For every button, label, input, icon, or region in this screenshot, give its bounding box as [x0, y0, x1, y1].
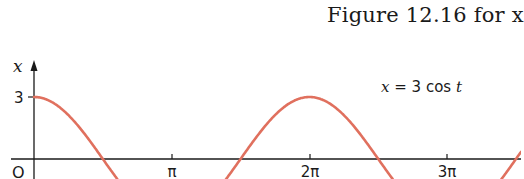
x-tick-label-2pi: 2π	[301, 163, 320, 179]
equation-label: x = 3 cos t	[381, 78, 463, 96]
x-tick-label-3pi: 3π	[438, 163, 457, 179]
origin-label: O	[12, 163, 25, 179]
x-tick-label-pi: π	[167, 163, 176, 179]
y-axis-label: x	[13, 56, 23, 76]
y-tick-label-3: 3	[14, 89, 24, 107]
y-axis-arrow-icon	[31, 60, 38, 71]
